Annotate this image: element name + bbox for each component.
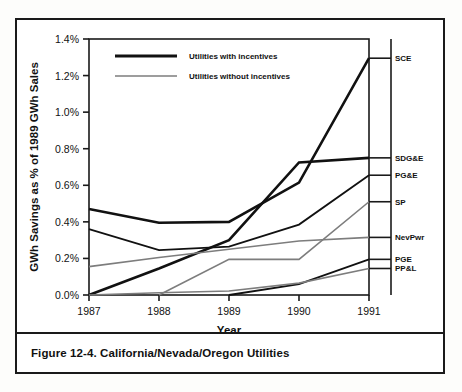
figure-caption: Figure 12-4. California/Nevada/Oregon Ut… <box>17 347 289 359</box>
line-chart: 0.0%0.2%0.4%0.6%0.8%1.0%1.2%1.4% 1987198… <box>17 20 443 332</box>
y-tick-label: 1.4% <box>55 33 79 45</box>
y-tick-label: 1.0% <box>55 106 79 118</box>
y-tick-label: 0.2% <box>55 252 79 264</box>
series-label-sce: SCE <box>395 54 412 63</box>
chart-region: 0.0%0.2%0.4%0.6%0.8%1.0%1.2%1.4% 1987198… <box>17 20 443 332</box>
x-tick-label: 1989 <box>217 305 241 317</box>
y-tick-label: 0.8% <box>55 143 79 155</box>
x-tick-label: 1988 <box>147 305 171 317</box>
x-axis-ticks: 19871988198919901991 <box>77 295 381 317</box>
figure-outer-box: 0.0%0.2%0.4%0.6%0.8%1.0%1.2%1.4% 1987198… <box>15 18 445 374</box>
series-label-sdg-e: SDG&E <box>395 154 424 163</box>
caption-area: Figure 12-4. California/Nevada/Oregon Ut… <box>17 334 443 372</box>
series-label-nevpwr: NevPwr <box>395 233 424 242</box>
x-axis-title: Year <box>217 324 242 332</box>
x-tick-label: 1990 <box>287 305 311 317</box>
legend-label-2: Utilities without incentives <box>189 72 290 81</box>
series-label-pg-e: PG&E <box>395 171 418 180</box>
x-tick-label: 1987 <box>77 305 101 317</box>
series-label-pge: PGE <box>395 255 413 264</box>
y-tick-label: 0.6% <box>55 179 79 191</box>
series-label-sp: SP <box>395 198 406 207</box>
series-labels: SCESDG&EPG&ESPNevPwrPGEPP&L <box>395 54 424 273</box>
series-label-leaders <box>369 39 391 295</box>
y-axis-ticks: 0.0%0.2%0.4%0.6%0.8%1.0%1.2%1.4% <box>55 33 89 301</box>
y-axis-title: GWh Savings as % of 1989 GWh Sales <box>28 62 40 272</box>
series-label-pp-l: PP&L <box>395 264 416 273</box>
figure-root: 0.0%0.2%0.4%0.6%0.8%1.0%1.2%1.4% 1987198… <box>0 0 462 392</box>
y-tick-label: 1.2% <box>55 70 79 82</box>
x-tick-label: 1991 <box>357 305 381 317</box>
y-tick-label: 0.4% <box>55 216 79 228</box>
y-tick-label: 0.0% <box>55 289 79 301</box>
legend-label-1: Utilities with incentives <box>189 52 278 61</box>
